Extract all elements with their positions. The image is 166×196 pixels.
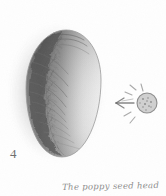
paper-grain-overlay [0,0,166,196]
pencil-drawing-canvas [0,0,166,196]
figure-number-label: 4 [10,147,17,160]
sketch-page: 4 The poppy seed head [0,0,166,196]
